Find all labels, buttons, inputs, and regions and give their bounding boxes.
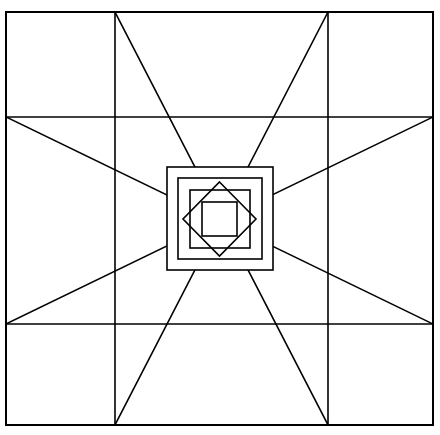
- quilt-block-figure: [0, 0, 440, 435]
- figure-root: Black and white geometric quilt block pa…: [0, 0, 440, 435]
- center-medallion: [167, 167, 273, 270]
